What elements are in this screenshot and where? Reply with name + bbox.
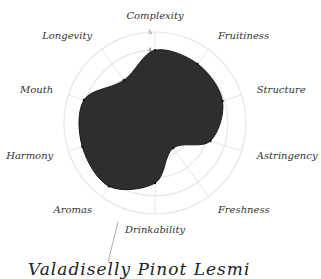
data-point — [81, 145, 83, 147]
data-point — [154, 49, 156, 51]
data-point — [221, 100, 223, 102]
axis-label-longevity: Longevity — [41, 30, 92, 41]
caption-leader-line — [108, 222, 118, 262]
axis-label-complexity: Complexity — [126, 10, 184, 21]
data-point — [108, 185, 110, 187]
data-point — [172, 147, 174, 149]
axis-label-freshness: Freshness — [217, 204, 270, 215]
axis-label-drinkability: Drinkability — [124, 224, 185, 235]
axis-label-aromas: Aromas — [52, 204, 92, 215]
axis-label-structure: Structure — [257, 84, 306, 95]
axis-label-harmony: Harmony — [5, 150, 53, 161]
chart-caption: Valadiselly Pinot Lesmi — [28, 259, 250, 279]
data-point — [83, 99, 85, 101]
data-point — [154, 182, 156, 184]
tick-label: 5 — [148, 28, 152, 35]
data-point — [197, 63, 199, 65]
series-area — [79, 50, 223, 190]
axis-label-mouth: Mouth — [19, 84, 53, 95]
axis-label-fruitiness: Fruitiness — [217, 30, 269, 41]
tick-label: 4 — [148, 46, 152, 53]
data-point — [123, 79, 125, 81]
axis-label-astringency: Astringency — [256, 150, 318, 161]
data-point — [209, 140, 211, 142]
